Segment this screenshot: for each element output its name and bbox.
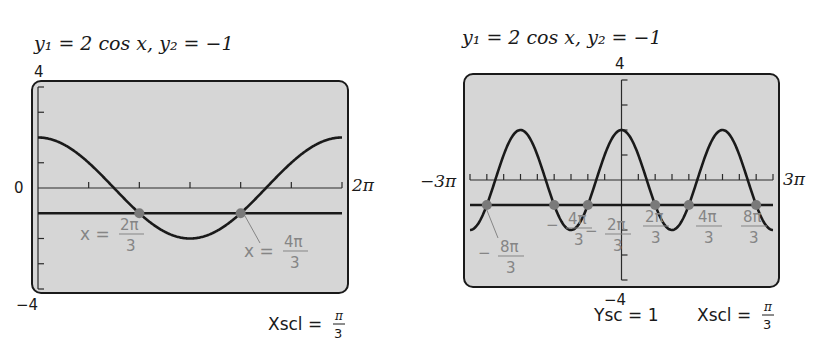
figure: y₁ = 2 cos x, y₂ = −1 4 0 −4 2π x = 2π 3… [0,0,818,355]
right-xmin-label: −3π [420,171,457,191]
right-title: y₁ = 2 cos x, y₂ = −1 [461,26,662,48]
label-denominator: 3 [506,259,516,277]
label-numerator: 2π [607,216,626,234]
label-numerator: 8π [743,208,762,226]
intersection-point [583,200,593,210]
label-denominator: 3 [613,237,623,255]
right-footer: Ysc = 1 Xscl = π 3 [593,300,774,332]
left-origin-label: 0 [14,179,24,197]
intersection-point [549,200,559,210]
label-sign: − [478,244,491,262]
svg-text:π: π [763,300,773,314]
label-denominator: 3 [574,231,584,249]
svg-text:3: 3 [763,317,771,332]
left-graph: y₁ = 2 cos x, y₂ = −1 4 0 −4 2π x = 2π 3… [14,32,375,341]
label-numerator: 2π [645,208,664,226]
svg-text:3: 3 [334,326,342,341]
label-denominator: 3 [749,229,759,247]
svg-text:π: π [334,309,344,323]
left-title: y₁ = 2 cos x, y₂ = −1 [33,32,234,54]
left-ymin-label: −4 [16,296,38,314]
intersection-point [684,200,694,210]
right-xmax-label: 3π [783,169,806,189]
intersection-point [482,200,492,210]
intersection-point [236,208,246,218]
right-ymax-label: 4 [615,55,625,73]
label-numerator: 8π [500,238,519,256]
svg-text:Xscl =: Xscl = [697,305,751,325]
label-numerator: 4π [568,210,587,228]
svg-text:3: 3 [126,237,136,255]
svg-text:3: 3 [290,254,300,272]
svg-text:x =: x = [244,241,274,261]
svg-text:Xscl =: Xscl = [268,314,322,334]
svg-text:4π: 4π [284,233,303,251]
left-xmax-label: 2π [351,175,375,195]
label-sign: − [546,216,559,234]
svg-text:2π: 2π [120,216,139,234]
svg-text:x =: x = [80,224,110,244]
left-footer: Xscl = π 3 [268,309,345,341]
label-numerator: 4π [698,208,717,226]
left-ymax-label: 4 [34,63,44,81]
svg-text:Ysc = 1: Ysc = 1 [593,305,658,325]
label-denominator: 3 [651,229,661,247]
right-graph: y₁ = 2 cos x, y₂ = −1 4 −4 −3π 3π −8π3−4… [420,26,806,332]
label-denominator: 3 [704,229,714,247]
label-sign: − [585,222,598,240]
